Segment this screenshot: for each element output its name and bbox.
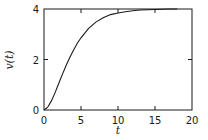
axis-ticks	[44, 9, 192, 110]
y-tick-label: 4	[33, 4, 39, 15]
line-chart: 05101520024 t v(t)	[0, 0, 208, 140]
data-line-v-t	[44, 9, 177, 110]
x-tick-label: 0	[41, 115, 47, 126]
y-tick-label: 0	[33, 105, 39, 116]
x-axis-label: t	[116, 124, 121, 137]
x-tick-label: 15	[149, 115, 162, 126]
x-tick-label: 20	[186, 115, 199, 126]
tick-labels: 05101520024	[33, 4, 199, 126]
y-tick-label: 2	[33, 55, 39, 66]
plot-frame	[44, 9, 192, 110]
y-axis-label: v(t)	[3, 50, 16, 69]
x-tick-label: 5	[78, 115, 84, 126]
